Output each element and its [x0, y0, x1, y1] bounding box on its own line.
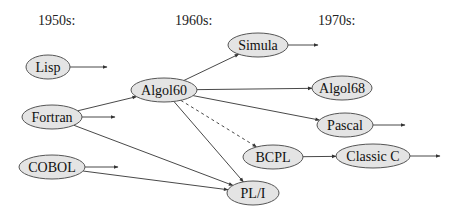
node-pascal-label: Pascal: [327, 118, 363, 133]
era-headers: 1950s: 1960s: 1970s:: [38, 13, 355, 28]
node-simula-label: Simula: [238, 38, 278, 53]
language-genealogy-diagram: 1950s: 1960s: 1970s: Lisp Fortran COBOL …: [0, 0, 456, 216]
node-pl1[interactable]: PL/I: [227, 181, 279, 205]
node-simula[interactable]: Simula: [228, 33, 288, 57]
edge-fortran-to-pl1: [74, 125, 233, 185]
node-bcpl-label: BCPL: [255, 150, 290, 165]
era-1970s-label: 1970s:: [318, 13, 355, 28]
node-fortran-label: Fortran: [31, 110, 72, 125]
node-pascal[interactable]: Pascal: [317, 113, 373, 137]
edge-algol60-to-pl1: [174, 101, 243, 181]
node-algol60-label: Algol60: [141, 83, 187, 98]
node-classic-c[interactable]: Classic C: [336, 144, 410, 168]
era-1960s-label: 1960s:: [175, 13, 212, 28]
edge-algol60-to-algol68: [197, 88, 312, 89]
edge-algol60-to-simula: [184, 54, 239, 80]
edges: [74, 54, 336, 190]
edge-algol60-to-bcpl: [181, 100, 257, 147]
edge-cobol-to-pl1: [83, 171, 228, 190]
edge-algol60-to-pascal: [193, 96, 319, 120]
node-classic-c-label: Classic C: [346, 149, 399, 164]
node-pl1-label: PL/I: [241, 186, 266, 201]
node-lisp-label: Lisp: [36, 60, 61, 75]
node-fortran[interactable]: Fortran: [22, 105, 82, 129]
era-1950s-label: 1950s:: [38, 13, 75, 28]
node-algol60[interactable]: Algol60: [131, 78, 197, 102]
node-lisp[interactable]: Lisp: [26, 55, 70, 79]
node-algol68[interactable]: Algol68: [312, 76, 372, 100]
node-cobol-label: COBOL: [28, 160, 75, 175]
edge-fortran-to-algol60: [78, 97, 137, 111]
node-algol68-label: Algol68: [319, 81, 365, 96]
node-cobol[interactable]: COBOL: [19, 155, 85, 179]
node-bcpl[interactable]: BCPL: [243, 145, 303, 169]
